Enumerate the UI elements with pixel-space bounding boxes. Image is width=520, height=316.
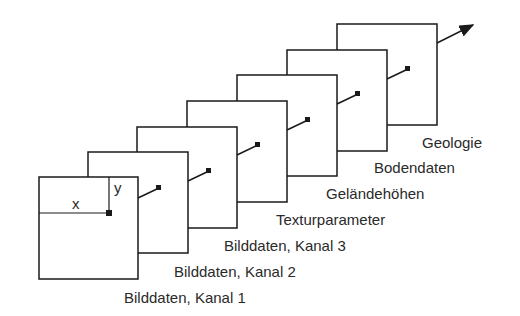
layer-label-6: Bodendaten bbox=[374, 160, 455, 175]
layer-label-2: Bilddaten, Kanal 2 bbox=[174, 264, 296, 279]
layer-label-4: Texturparameter bbox=[276, 212, 385, 227]
layer-label-7: Geologie bbox=[422, 135, 482, 150]
y-axis-label: y bbox=[114, 180, 122, 195]
layer-label-1: Bilddaten, Kanal 1 bbox=[124, 290, 246, 305]
x-axis-label: x bbox=[72, 196, 80, 211]
layer-label-3: Bilddaten, Kanal 3 bbox=[224, 238, 346, 253]
vector-arrow bbox=[437, 25, 473, 43]
layer-label-5: Geländehöhen bbox=[326, 186, 424, 201]
